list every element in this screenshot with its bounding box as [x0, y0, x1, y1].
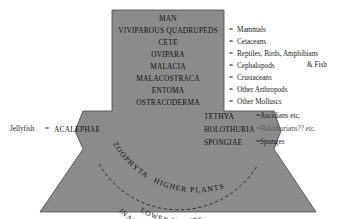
- equals-sign-cetaceans: =: [229, 39, 237, 46]
- gloss-mammals: =Mammals: [229, 27, 266, 34]
- taxon-name-malacia: MALACIA: [150, 63, 186, 70]
- taxon-name-malacostraca: MALACOSTRACA: [136, 75, 199, 82]
- equals-sign-mammals: =: [229, 27, 237, 34]
- gloss-text-other-molluscs: Other Molluscs: [237, 98, 282, 106]
- taxon-name-acalephae: ACALEPHAE: [54, 126, 100, 133]
- gloss-text-crustaceans: Crustaceans: [237, 74, 272, 82]
- gloss-holothurians: =Holothurians?? etc.: [256, 126, 316, 133]
- gloss-text-sponges: Sponges: [260, 138, 284, 146]
- taxon-name-ostracoderma: OSTRACODERMA: [136, 99, 199, 106]
- gloss-other-arthropods: =Other Arthropods: [229, 87, 288, 94]
- gloss-text-holothurians: Holothurians?? etc.: [260, 125, 316, 133]
- gloss-text-ascidians: Ascidians etc.: [260, 112, 300, 120]
- equals-sign-cephalopods: =: [229, 63, 237, 70]
- gloss-text-cephalopods: Cephalopods: [237, 62, 275, 70]
- taxon-name-spongiae: SPONGIAE: [204, 139, 242, 146]
- body-polygon: [40, 10, 316, 212]
- gloss-text-mammals: Mammals: [237, 26, 266, 34]
- equals-sign-other-arthropods: =: [229, 87, 237, 94]
- taxon-name-man: MAN: [159, 15, 177, 22]
- gloss-ascidians: =Ascidians etc.: [256, 113, 300, 120]
- equals-sign-other-molluscs: =: [229, 99, 237, 106]
- equals-sign-crustaceans: =: [229, 75, 237, 82]
- gloss-ovipara: =Reptiles, Birds, Amphibians: [229, 51, 318, 58]
- taxon-name-ovipara: OVIPARA: [151, 51, 184, 58]
- gloss-text-ovipara: Reptiles, Birds, Amphibians: [237, 50, 318, 58]
- gloss-text-other-arthropods: Other Arthropods: [237, 86, 288, 94]
- gloss-other-molluscs: =Other Molluscs: [229, 99, 282, 106]
- left-equals-sign: =: [45, 125, 49, 133]
- gloss-cetaceans: =Cetaceans: [229, 39, 266, 46]
- gloss-sponges: =Sponges: [256, 139, 284, 146]
- gloss-crustaceans: =Crustaceans: [229, 75, 272, 82]
- taxon-name-holothuria: HOLOTHURIA: [204, 126, 254, 133]
- taxon-name-viviparous-quadrupeds: VIVIPAROUS QUADRUPEDS: [118, 27, 217, 34]
- taxon-name-cete: CETE: [158, 39, 177, 46]
- gloss-cephalopods: =Cephalopods: [229, 63, 275, 70]
- left-gloss-jellyfish: Jellyfish =: [10, 126, 49, 133]
- equals-sign-ovipara: =: [229, 51, 237, 58]
- left-gloss-text-jellyfish: Jellyfish: [10, 125, 34, 133]
- figure-canvas: ZOOPHYTA HIGHER PLANTS LOWER PLANTS INAN…: [0, 0, 356, 219]
- taxon-name-entoma: ENTOMA: [152, 87, 185, 94]
- gloss-ovipara-continuation: & Fish: [307, 62, 327, 69]
- gloss-text-cetaceans: Cetaceans: [237, 38, 266, 46]
- taxon-name-tethya: TETHYA: [204, 113, 234, 120]
